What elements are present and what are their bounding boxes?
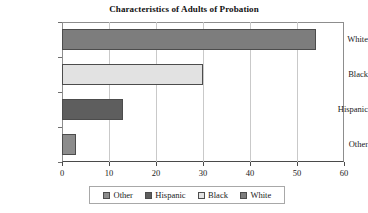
bar-other bbox=[62, 134, 76, 155]
x-axis-tick bbox=[109, 162, 110, 166]
bar-white bbox=[62, 29, 316, 50]
legend-item-white[interactable]: White bbox=[240, 190, 271, 200]
x-axis-tick bbox=[62, 162, 63, 166]
bar-chart: Characteristics of Adults of Probation W… bbox=[0, 0, 368, 213]
x-axis-label-50: 50 bbox=[282, 168, 312, 178]
legend-swatch-icon bbox=[103, 192, 110, 199]
x-axis-label-40: 40 bbox=[235, 168, 265, 178]
x-axis-label-60: 60 bbox=[329, 168, 359, 178]
legend-swatch-icon bbox=[240, 192, 247, 199]
legend-swatch-icon bbox=[198, 192, 205, 199]
legend-label: Black bbox=[208, 190, 228, 200]
bar-black bbox=[62, 64, 203, 85]
x-axis-label-0: 0 bbox=[47, 168, 77, 178]
y-axis-label-black: Black bbox=[310, 69, 368, 79]
legend-item-hispanic[interactable]: Hispanic bbox=[145, 190, 186, 200]
y-axis-label-white: White bbox=[310, 34, 368, 44]
x-axis-tick bbox=[203, 162, 204, 166]
x-axis-label-30: 30 bbox=[188, 168, 218, 178]
chart-legend: OtherHispanicBlackWhite bbox=[89, 186, 285, 204]
legend-label: Other bbox=[114, 190, 133, 200]
legend-label: White bbox=[250, 190, 271, 200]
x-axis-tick bbox=[250, 162, 251, 166]
legend-label: Hispanic bbox=[155, 190, 185, 200]
x-axis-label-10: 10 bbox=[94, 168, 124, 178]
y-axis-label-other: Other bbox=[310, 139, 368, 149]
y-axis-tick bbox=[58, 127, 62, 128]
legend-swatch-icon bbox=[145, 192, 152, 199]
bar-hispanic bbox=[62, 99, 123, 120]
x-axis-tick bbox=[156, 162, 157, 166]
legend-item-other[interactable]: Other bbox=[103, 190, 133, 200]
y-axis-tick bbox=[58, 57, 62, 58]
y-axis-tick bbox=[58, 92, 62, 93]
legend-item-black[interactable]: Black bbox=[198, 190, 228, 200]
x-axis-tick bbox=[297, 162, 298, 166]
y-axis-label-hispanic: Hispanic bbox=[310, 104, 368, 114]
chart-title: Characteristics of Adults of Probation bbox=[0, 4, 368, 14]
x-axis-tick bbox=[344, 162, 345, 166]
y-axis-tick bbox=[58, 22, 62, 23]
x-axis-label-20: 20 bbox=[141, 168, 171, 178]
